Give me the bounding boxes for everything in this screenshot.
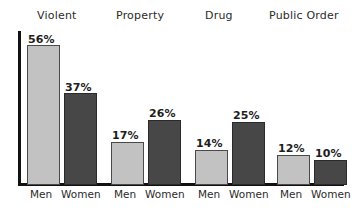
value-label-drug-women: 25%: [233, 109, 260, 122]
bar-property-women[interactable]: [148, 120, 181, 185]
bar-public-order-men[interactable]: [277, 155, 310, 185]
tick-label-property-men: Men: [114, 188, 136, 200]
value-label-violent-women: 37%: [65, 81, 92, 94]
value-label-property-women: 26%: [149, 107, 176, 120]
tick-label-public-order-men: Men: [280, 188, 302, 200]
bar-chart: Violent Property Drug Public Order 56% 3…: [0, 0, 356, 210]
tick-label-public-order-women: Women: [311, 188, 351, 200]
tick-label-violent-women: Women: [61, 188, 101, 200]
group-header-public-order: Public Order: [269, 9, 339, 22]
tick-label-property-women: Women: [145, 188, 185, 200]
value-label-public-order-women: 10%: [315, 147, 342, 160]
value-label-drug-men: 14%: [196, 137, 223, 150]
bar-drug-men[interactable]: [195, 150, 228, 185]
bar-drug-women[interactable]: [232, 122, 265, 185]
value-label-property-men: 17%: [112, 129, 139, 142]
bar-public-order-women[interactable]: [314, 160, 347, 185]
value-label-violent-men: 56%: [28, 33, 55, 46]
tick-label-drug-men: Men: [198, 188, 220, 200]
bar-violent-men[interactable]: [27, 45, 60, 185]
group-header-violent: Violent: [37, 9, 77, 22]
bar-property-men[interactable]: [111, 142, 144, 185]
group-header-property: Property: [116, 9, 164, 22]
group-header-drug: Drug: [205, 9, 233, 22]
bar-violent-women[interactable]: [64, 93, 97, 185]
tick-label-violent-men: Men: [30, 188, 52, 200]
tick-label-drug-women: Women: [229, 188, 269, 200]
y-axis-line: [18, 31, 21, 185]
value-label-public-order-men: 12%: [278, 142, 305, 155]
